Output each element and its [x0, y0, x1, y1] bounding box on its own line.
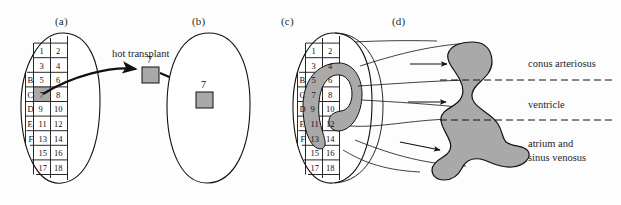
svg-text:18: 18 — [326, 163, 335, 173]
svg-text:2: 2 — [56, 46, 60, 56]
svg-text:13: 13 — [311, 134, 320, 144]
svg-text:3: 3 — [40, 61, 44, 71]
svg-text:6: 6 — [56, 75, 60, 85]
svg-text:6: 6 — [328, 75, 332, 85]
svg-text:12: 12 — [326, 119, 335, 129]
svg-text:10: 10 — [54, 104, 63, 114]
svg-text:F: F — [29, 134, 34, 144]
svg-text:D: D — [28, 104, 34, 114]
donor-square — [142, 67, 159, 83]
svg-text:D: D — [300, 104, 306, 114]
svg-text:F: F — [301, 134, 306, 144]
figure-canvas: 1 2 3 4 5 6 7 8 9 10 11 12 13 14 15 16 1… — [0, 0, 621, 205]
panel-label-a: (a) — [55, 15, 68, 27]
svg-text:E: E — [28, 119, 33, 129]
svg-text:1: 1 — [312, 46, 316, 56]
svg-text:B: B — [28, 75, 34, 85]
svg-text:11: 11 — [39, 119, 47, 129]
hot-transplant-label: hot transplant — [112, 48, 169, 59]
svg-text:12: 12 — [54, 119, 63, 129]
svg-text:1: 1 — [40, 46, 44, 56]
panel-b-group — [167, 33, 250, 183]
svg-text:14: 14 — [54, 134, 63, 144]
panel-d-group — [432, 42, 529, 180]
svg-text:5: 5 — [40, 75, 44, 85]
svg-text:9: 9 — [39, 104, 43, 114]
svg-text:13: 13 — [39, 134, 48, 144]
svg-text:14: 14 — [326, 134, 335, 144]
svg-text:C: C — [300, 90, 306, 100]
svg-text:10: 10 — [326, 104, 335, 114]
svg-text:11: 11 — [311, 119, 319, 129]
svg-text:16: 16 — [54, 148, 63, 158]
projection-arrowheads — [400, 64, 447, 150]
svg-text:16: 16 — [326, 148, 335, 158]
svg-text:8: 8 — [328, 90, 332, 100]
svg-text:C: C — [28, 90, 34, 100]
svg-text:E: E — [300, 119, 305, 129]
region-label-ventricle: ventricle — [528, 98, 565, 111]
region-label-atrium-line1: atrium and — [528, 137, 573, 150]
svg-text:17: 17 — [39, 163, 48, 173]
svg-text:7: 7 — [312, 90, 316, 100]
panel-label-d: (d) — [392, 15, 405, 27]
svg-text:7: 7 — [40, 90, 44, 100]
svg-text:3: 3 — [312, 61, 316, 71]
region-label-conus-arteriosus: conus arteriosus — [528, 57, 596, 70]
host-square — [196, 92, 213, 108]
panel-a-group: 1 2 3 4 5 6 7 8 9 10 11 12 13 14 15 16 1… — [21, 33, 100, 183]
svg-text:5: 5 — [312, 75, 316, 85]
svg-text:15: 15 — [311, 148, 320, 158]
panel-c-group: 1 2 3 4 5 6 7 8 9 10 11 12 13 14 15 16 1… — [293, 33, 437, 183]
svg-text:17: 17 — [311, 163, 320, 173]
panel-label-c: (c) — [281, 15, 294, 27]
svg-text:2: 2 — [328, 46, 332, 56]
panel-label-b: (b) — [192, 15, 205, 27]
svg-text:9: 9 — [311, 104, 315, 114]
svg-text:8: 8 — [56, 90, 60, 100]
arrow-atrium — [400, 142, 440, 150]
svg-text:18: 18 — [54, 163, 63, 173]
heart-tube-shape — [432, 42, 529, 180]
svg-text:B: B — [300, 75, 306, 85]
svg-text:15: 15 — [39, 148, 48, 158]
region-label-atrium-line2: sinus venosus — [528, 151, 586, 164]
host-square-number: 7 — [201, 79, 206, 90]
donor-square-number: 7 — [147, 54, 152, 65]
